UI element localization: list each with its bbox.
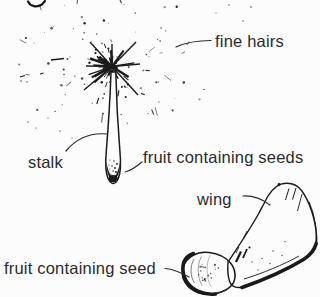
cropped-text-remnant — [28, 1, 45, 6]
label-fruit-containing-seeds: fruit containing seeds — [143, 148, 303, 166]
seed-texture — [191, 255, 219, 287]
fruit-tip-dark-cap — [108, 175, 118, 182]
label-fine-hairs: fine hairs — [215, 32, 284, 50]
pappus-stipple-halo — [18, 0, 252, 139]
fine-hairs-leader-line — [176, 41, 211, 48]
fruit-containing-seed-leader-line — [165, 269, 189, 278]
fruit-containing-seeds-leader-line — [125, 162, 142, 172]
stalk-leader-line — [66, 134, 107, 151]
seed-dispersal-figure: fine hairs stalk fruit containing seeds … — [0, 0, 320, 297]
label-stalk: stalk — [28, 153, 63, 171]
label-wing: wing — [196, 190, 232, 208]
label-fruit-containing-seed: fruit containing seed — [4, 259, 156, 277]
stalk-and-fruit-drawing — [106, 72, 121, 183]
figure-canvas: fine hairs stalk fruit containing seeds … — [0, 0, 320, 297]
wing-shading — [242, 202, 316, 288]
wing-drawing — [228, 183, 317, 287]
